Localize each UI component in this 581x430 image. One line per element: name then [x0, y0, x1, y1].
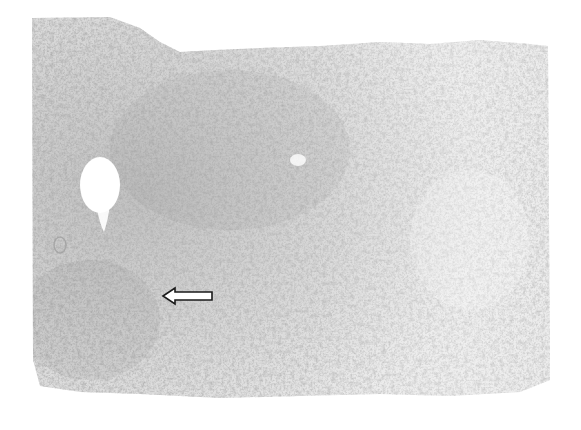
arrow-left-icon — [160, 286, 216, 306]
tissue-section — [0, 0, 581, 430]
vacuole — [80, 157, 120, 213]
micrograph-figure — [0, 0, 581, 430]
